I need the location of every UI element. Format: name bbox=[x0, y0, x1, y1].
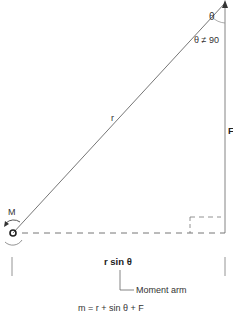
moment-curl-lower bbox=[5, 240, 22, 245]
moment-arm-connector bbox=[120, 270, 134, 290]
moment-arm-diagram: θ θ ≠ 90 r F M r sin θ Moment arm m = r … bbox=[0, 0, 233, 315]
moment-arm-label: Moment arm bbox=[136, 286, 187, 295]
diagram-lines bbox=[0, 0, 233, 315]
moment-arrowhead-icon bbox=[4, 221, 9, 227]
r-label: r bbox=[111, 114, 114, 123]
force-label: F bbox=[228, 126, 233, 136]
arrowhead-icon bbox=[222, 0, 228, 8]
formula-label: m = r + sin θ + F bbox=[78, 304, 144, 313]
moment-arm-length-label: r sin θ bbox=[104, 257, 132, 267]
moment-label: M bbox=[8, 208, 16, 217]
theta-label: θ bbox=[209, 12, 215, 22]
moment-curl-arrow bbox=[6, 220, 20, 223]
theta-note-label: θ ≠ 90 bbox=[194, 36, 219, 45]
